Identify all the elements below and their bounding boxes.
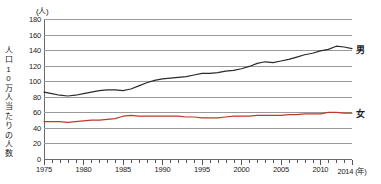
- y-axis-tick-label: 20: [1, 139, 41, 148]
- x-axis-tick: [194, 160, 195, 163]
- x-axis-tick: [131, 160, 132, 163]
- x-axis-tick: [210, 160, 211, 163]
- y-axis-tick-label: 0: [1, 155, 41, 164]
- series-lines: [44, 19, 352, 159]
- x-axis-tick-label: 1975: [36, 165, 52, 174]
- y-axis-tick-label: 120: [1, 61, 41, 70]
- series-label-male: 男: [356, 43, 365, 56]
- x-axis-tick: [68, 160, 69, 163]
- x-axis-tick: [91, 160, 92, 163]
- x-axis-tick: [289, 160, 290, 163]
- x-axis-tick-label: 2014 (年): [337, 165, 366, 176]
- x-axis-tick-label: 1995: [194, 165, 210, 174]
- x-axis-tick: [155, 160, 156, 163]
- x-axis-tick-label: 2005: [273, 165, 289, 174]
- x-axis-tick: [249, 160, 250, 163]
- x-axis-tick: [313, 160, 314, 163]
- x-axis-tick: [76, 160, 77, 163]
- x-axis-tick-label: 1990: [155, 165, 171, 174]
- x-axis-tick-label: 2010: [312, 165, 328, 174]
- x-axis-tick: [60, 160, 61, 163]
- x-axis-tick: [218, 160, 219, 163]
- x-axis-tick: [297, 160, 298, 163]
- x-axis-tick: [336, 160, 337, 163]
- x-axis-tick: [178, 160, 179, 163]
- x-axis-tick: [139, 160, 140, 163]
- x-axis-tick-label: 1985: [115, 165, 131, 174]
- x-axis-tick: [52, 160, 53, 163]
- y-axis-tick-label: 60: [1, 108, 41, 117]
- chart-container: (人) 人口10万人当たりの人数 02040608010012014016018…: [0, 0, 381, 184]
- y-axis-tick-label: 80: [1, 92, 41, 101]
- x-axis-tick-label: 1980: [76, 165, 92, 174]
- y-axis-tick-label: 100: [1, 77, 41, 86]
- x-axis-tick: [115, 160, 116, 163]
- x-axis-tick: [107, 160, 108, 163]
- x-axis-tick: [234, 160, 235, 163]
- x-axis-tick: [257, 160, 258, 163]
- x-axis-tick: [186, 160, 187, 163]
- series-line-male: [44, 46, 352, 96]
- x-axis-tick-labels: 197519801985199019952000200520102014 (年): [0, 165, 381, 179]
- y-axis-tick-label: 160: [1, 30, 41, 39]
- y-axis-tick-label: 180: [1, 15, 41, 24]
- x-axis-tick: [273, 160, 274, 163]
- plot-area: [44, 19, 352, 159]
- x-axis-tick: [226, 160, 227, 163]
- y-axis-tick-label: 140: [1, 46, 41, 55]
- x-axis-tick: [147, 160, 148, 163]
- x-axis-tick: [305, 160, 306, 163]
- x-axis-tick: [99, 160, 100, 163]
- y-axis-tick-label: 40: [1, 123, 41, 132]
- x-axis-tick: [344, 160, 345, 163]
- x-axis-tick: [265, 160, 266, 163]
- series-line-female: [44, 112, 352, 122]
- x-axis-tick: [328, 160, 329, 163]
- y-axis-tick-labels: 020406080100120140160180: [0, 19, 41, 159]
- x-axis-tick: [170, 160, 171, 163]
- x-axis-tick-label: 2000: [233, 165, 249, 174]
- series-label-female: 女: [356, 107, 365, 120]
